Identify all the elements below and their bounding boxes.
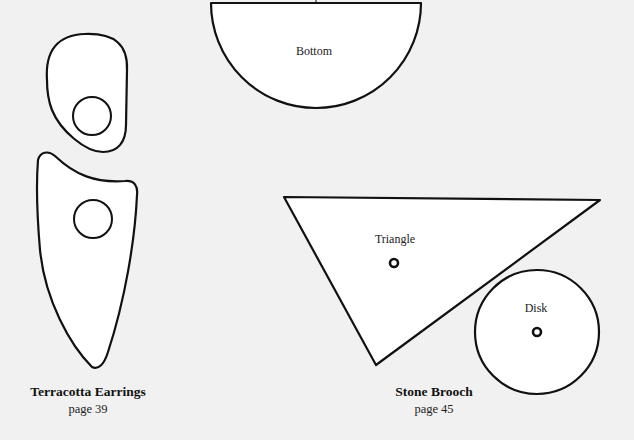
pattern-sheet xyxy=(0,0,634,440)
earring-bottom-hole xyxy=(74,200,112,238)
bottom-label: Bottom xyxy=(296,44,332,59)
earrings-caption: Terracotta Earrings page 39 xyxy=(30,384,145,417)
triangle-label: Triangle xyxy=(375,232,415,247)
disk-hole xyxy=(533,328,541,336)
brooch-title: Stone Brooch xyxy=(395,384,472,400)
earrings-page-ref: page 39 xyxy=(30,402,145,417)
disk-label: Disk xyxy=(525,301,548,316)
earrings-title: Terracotta Earrings xyxy=(30,384,145,400)
triangle-hole xyxy=(390,259,398,267)
brooch-caption: Stone Brooch page 45 xyxy=(395,384,472,417)
brooch-page-ref: page 45 xyxy=(395,402,472,417)
earring-top-hole xyxy=(73,97,111,135)
earring-bottom-shape xyxy=(37,153,137,368)
